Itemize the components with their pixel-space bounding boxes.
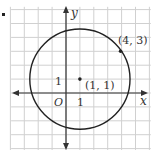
origin-label: O <box>54 96 63 109</box>
point-on-circle <box>119 50 123 54</box>
center-point <box>78 77 82 81</box>
center-point-label: (1, 1) <box>85 79 115 92</box>
y-axis-label: y <box>70 6 78 20</box>
x-tick-label: 1 <box>77 96 84 109</box>
x-axis-label: x <box>140 94 147 108</box>
coordinate-plane: x y O 1 1 (1, 1) (4, 3) <box>0 0 153 158</box>
point-on-circle-label: (4, 3) <box>118 34 148 47</box>
y-tick-label: 1 <box>55 75 62 88</box>
